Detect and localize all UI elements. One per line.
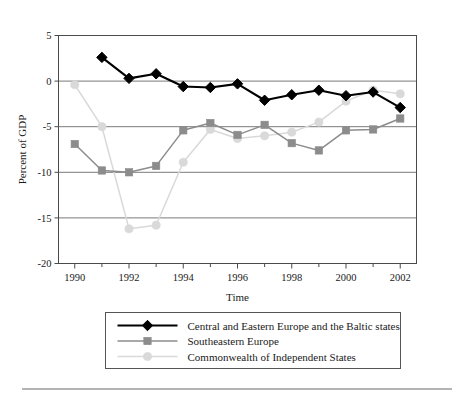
y-axis-ticks: 50-5-10-15-20 xyxy=(38,30,59,269)
figure-container: 50-5-10-15-20 19901992199419961998200020… xyxy=(0,0,472,397)
square-marker xyxy=(207,119,214,126)
series-group xyxy=(71,52,406,233)
square-marker xyxy=(315,147,322,154)
x-tick-label: 1990 xyxy=(64,272,85,283)
y-axis-title: Percent of GDP xyxy=(16,115,28,185)
legend-label: Commonwealth of Independent States xyxy=(188,351,356,363)
diamond-marker xyxy=(178,81,188,91)
y-tick-label: -20 xyxy=(38,258,52,269)
square-marker xyxy=(71,140,78,147)
x-axis-ticks: 1990199219941996199820002002 xyxy=(64,264,410,283)
series-diamond xyxy=(97,52,406,113)
diamond-marker xyxy=(395,102,405,112)
x-axis-title: Time xyxy=(226,291,249,303)
diamond-marker xyxy=(205,82,215,92)
y-tick-label: -10 xyxy=(38,167,52,178)
diamond-marker xyxy=(151,69,161,79)
square-marker xyxy=(288,139,295,146)
y-tick-label: -5 xyxy=(43,121,52,132)
square-marker xyxy=(144,337,151,344)
legend-label: Southeastern Europe xyxy=(188,335,279,347)
plot-frame xyxy=(59,36,417,264)
circle-marker xyxy=(152,221,160,229)
square-marker xyxy=(234,131,241,138)
circle-marker xyxy=(261,132,269,140)
y-tick-label: -15 xyxy=(38,213,52,224)
x-tick-label: 1996 xyxy=(227,272,248,283)
gdp-line-chart: 50-5-10-15-20 19901992199419961998200020… xyxy=(0,0,472,397)
square-marker xyxy=(152,162,159,169)
square-marker xyxy=(261,121,268,128)
series-square xyxy=(71,115,404,176)
y-tick-label: 5 xyxy=(46,30,51,41)
series-circle xyxy=(71,81,405,233)
diamond-marker xyxy=(232,79,242,89)
gridlines-group xyxy=(59,81,417,218)
diamond-marker xyxy=(314,85,324,95)
x-tick-label: 1998 xyxy=(281,272,302,283)
circle-marker xyxy=(179,158,187,166)
circle-marker xyxy=(98,123,106,131)
circle-marker xyxy=(288,128,296,136)
square-marker xyxy=(342,127,349,134)
circle-marker xyxy=(396,90,404,98)
x-tick-label: 2000 xyxy=(335,272,356,283)
x-tick-label: 1994 xyxy=(173,272,195,283)
circle-marker xyxy=(125,225,133,233)
square-marker xyxy=(180,127,187,134)
x-tick-label: 1992 xyxy=(119,272,140,283)
square-marker xyxy=(98,167,105,174)
legend-label: Central and Eastern Europe and the Balti… xyxy=(188,320,400,332)
square-marker xyxy=(125,169,132,176)
circle-marker xyxy=(143,352,151,360)
diamond-marker xyxy=(287,90,297,100)
x-tick-label: 2002 xyxy=(390,272,411,283)
circle-marker xyxy=(315,118,323,126)
square-marker xyxy=(397,115,404,122)
diamond-marker xyxy=(259,95,269,105)
y-tick-label: 0 xyxy=(46,76,51,87)
circle-marker xyxy=(71,81,79,89)
square-marker xyxy=(369,126,376,133)
